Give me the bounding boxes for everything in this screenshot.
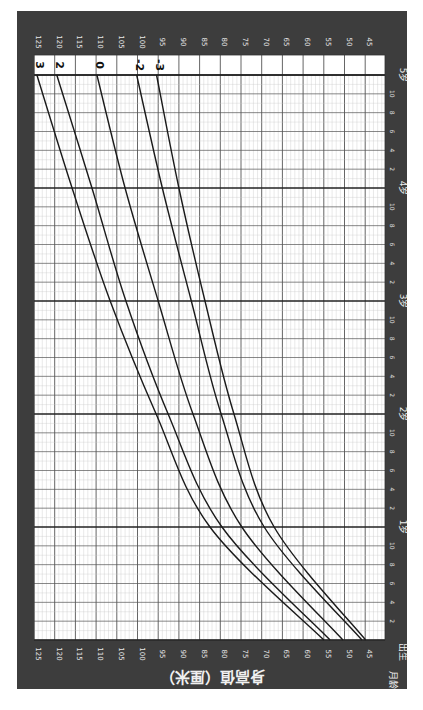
height-tick-top: 90 (179, 38, 187, 47)
year-label: 2岁 (398, 407, 409, 422)
month-tick-label: 6 (389, 469, 396, 473)
month-tick-label: 2 (389, 619, 396, 623)
curve-label: 3 (33, 61, 46, 69)
height-tick-bottom: 65 (282, 650, 290, 659)
month-tick-label: 8 (389, 111, 396, 115)
month-tick-label: 10 (389, 542, 396, 550)
month-tick-label: 8 (389, 563, 396, 567)
curve-label: 2 (53, 61, 66, 69)
height-tick-top: 100 (138, 35, 146, 48)
month-tick-label: 4 (389, 374, 396, 378)
month-age-label: 月龄 (388, 671, 399, 689)
month-tick-label: 2 (389, 167, 396, 171)
year-label: 3岁 (398, 294, 409, 309)
month-tick-label: 10 (389, 316, 396, 324)
month-tick-label: 6 (389, 356, 396, 360)
height-tick-bottom: 125 (34, 647, 42, 660)
height-tick-top: 110 (96, 35, 104, 48)
height-tick-bottom: 110 (96, 647, 104, 660)
height-tick-bottom: 120 (55, 647, 63, 660)
height-tick-bottom: 45 (365, 650, 373, 659)
month-tick-label: 2 (389, 393, 396, 397)
height-tick-bottom: 75 (241, 650, 249, 659)
height-tick-top: 75 (241, 38, 249, 47)
month-tick-label: 4 (389, 261, 396, 265)
growth-chart: 320-2-3125125120120115115110110105105100… (0, 0, 423, 710)
year-label: 1岁 (398, 520, 409, 535)
month-tick-label: 6 (389, 243, 396, 247)
month-tick-label: 2 (389, 506, 396, 510)
birth-label: 出生 (398, 643, 409, 661)
height-tick-top: 50 (345, 38, 353, 47)
height-tick-bottom: 85 (200, 650, 208, 659)
month-tick-label: 8 (389, 224, 396, 228)
month-tick-label: 6 (389, 582, 396, 586)
height-tick-top: 95 (158, 38, 166, 47)
height-tick-top: 55 (324, 38, 332, 47)
height-tick-bottom: 60 (303, 650, 311, 659)
height-tick-top: 125 (34, 35, 42, 48)
height-tick-top: 60 (303, 38, 311, 47)
height-tick-top: 105 (117, 35, 125, 48)
month-tick-label: 8 (389, 450, 396, 454)
height-tick-bottom: 95 (158, 650, 166, 659)
height-tick-top: 80 (220, 38, 228, 47)
height-tick-bottom: 100 (138, 647, 146, 660)
curve-label: -3 (153, 59, 166, 71)
plot-area (34, 55, 385, 640)
height-tick-bottom: 105 (117, 647, 125, 660)
height-tick-bottom: 115 (75, 647, 83, 660)
height-tick-bottom: 80 (220, 650, 228, 659)
chart-title: 身高值（厘米） (160, 668, 265, 686)
height-tick-bottom: 50 (345, 650, 353, 659)
height-tick-top: 85 (200, 38, 208, 47)
height-tick-top: 115 (75, 35, 83, 48)
month-tick-label: 10 (389, 203, 396, 211)
month-tick-label: 4 (389, 487, 396, 491)
month-tick-label: 8 (389, 337, 396, 341)
height-tick-top: 120 (55, 35, 63, 48)
height-tick-bottom: 55 (324, 650, 332, 659)
height-tick-top: 45 (365, 38, 373, 47)
month-tick-label: 4 (389, 600, 396, 604)
year-label: 5岁 (398, 68, 409, 83)
height-tick-top: 65 (282, 38, 290, 47)
curve-label: 0 (93, 61, 106, 69)
year-label: 4岁 (398, 181, 409, 196)
month-tick-label: 4 (389, 148, 396, 152)
curve-label: -2 (133, 59, 146, 71)
month-tick-label: 2 (389, 280, 396, 284)
height-tick-bottom: 70 (262, 650, 270, 659)
grid (34, 55, 385, 640)
month-tick-label: 10 (389, 429, 396, 437)
height-tick-bottom: 90 (179, 650, 187, 659)
height-tick-top: 70 (262, 38, 270, 47)
month-tick-label: 6 (389, 130, 396, 134)
month-tick-label: 10 (389, 90, 396, 98)
